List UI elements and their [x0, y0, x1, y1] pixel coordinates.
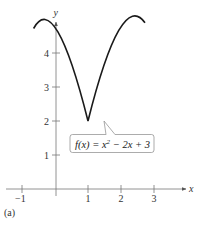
equation-label: f(x) = x2 − 2x + 3: [75, 138, 150, 151]
chart-svg: −1 1 2 3 1 2 3 4 x y f(x) = x2 − 2x + 3: [0, 0, 198, 231]
y-tick-label: 1: [44, 150, 49, 161]
x-tick-label: 3: [152, 193, 157, 204]
x-tick-label: 2: [119, 193, 124, 204]
y-tick-label: 2: [44, 116, 49, 127]
x-tick-label: −1: [15, 193, 26, 204]
parabola-curve: [34, 16, 145, 121]
y-tick-label: 3: [44, 82, 49, 93]
x-axis-label: x: [188, 183, 194, 194]
y-axis-label: y: [53, 7, 59, 18]
x-tick-label: 1: [86, 193, 91, 204]
equation-callout: f(x) = x2 − 2x + 3: [70, 121, 154, 153]
figure-caption: (a): [4, 207, 15, 218]
y-tick-label: 4: [44, 48, 49, 59]
